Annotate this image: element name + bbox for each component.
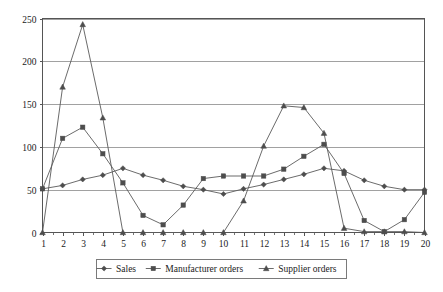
- data-point-7: [161, 223, 165, 227]
- x-tick-label-17: 17: [360, 239, 370, 249]
- data-point-20: [422, 190, 426, 194]
- x-tick-label-13: 13: [280, 239, 290, 249]
- line-chart: 050100150200250 123456789101112131415161…: [0, 0, 443, 292]
- x-tick-label-18: 18: [380, 239, 390, 249]
- x-tick-label-16: 16: [340, 239, 350, 249]
- data-point-9: [201, 176, 205, 180]
- x-tick-label-15: 15: [320, 239, 330, 249]
- y-tick-label-150: 150: [22, 100, 37, 110]
- x-tick-label-1: 1: [41, 239, 46, 249]
- x-tick-label-14: 14: [300, 239, 310, 249]
- x-tick-label-7: 7: [161, 239, 166, 249]
- data-point-6: [141, 213, 145, 217]
- data-point-11: [241, 174, 245, 178]
- data-point-17: [362, 218, 366, 222]
- data-point-2: [60, 136, 64, 140]
- y-tick-label-50: 50: [27, 186, 37, 196]
- x-tick-label-19: 19: [400, 239, 410, 249]
- data-point-4: [101, 152, 105, 156]
- data-point-8: [181, 203, 185, 207]
- x-tick-label-9: 9: [201, 239, 206, 249]
- y-tick-label-200: 200: [22, 57, 37, 67]
- x-tick-label-6: 6: [141, 239, 146, 249]
- chart-canvas: 050100150200250 123456789101112131415161…: [0, 0, 443, 292]
- data-point-19: [402, 217, 406, 221]
- x-tick-label-10: 10: [219, 239, 229, 249]
- y-tick-label-250: 250: [22, 15, 37, 25]
- data-point-5: [121, 181, 125, 185]
- x-tick-label-4: 4: [101, 239, 106, 249]
- data-point-15: [322, 142, 326, 146]
- data-point-14: [302, 154, 306, 158]
- legend-label: Supplier orders: [278, 264, 337, 274]
- y-tick-label-0: 0: [32, 229, 37, 239]
- y-tick-label-100: 100: [22, 143, 37, 153]
- data-point-12: [261, 174, 265, 178]
- data-point-13: [282, 167, 286, 171]
- x-tick-label-11: 11: [240, 239, 249, 249]
- x-tick-label-2: 2: [61, 239, 66, 249]
- data-point-3: [81, 125, 85, 129]
- x-tick-label-12: 12: [260, 239, 270, 249]
- x-tick-label-8: 8: [181, 239, 186, 249]
- data-point-16: [342, 171, 346, 175]
- data-point-1: [40, 187, 44, 191]
- x-tick-label-5: 5: [121, 239, 126, 249]
- x-tick-label-3: 3: [81, 239, 86, 249]
- data-point-10: [221, 174, 225, 178]
- legend-label: Manufacturer orders: [165, 264, 243, 274]
- x-tick-label-20: 20: [421, 239, 431, 249]
- legend-label: Sales: [116, 264, 136, 274]
- chart-legend: SalesManufacturer ordersSupplier orders: [97, 259, 347, 278]
- legend-marker-square-icon: [151, 266, 155, 270]
